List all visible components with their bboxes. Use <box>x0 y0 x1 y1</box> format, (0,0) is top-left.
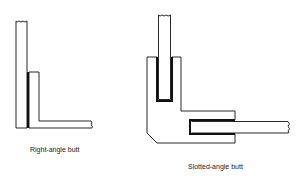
caption-right-angle-butt: Right-angle butt <box>30 146 79 153</box>
horizontal-board <box>29 72 92 128</box>
vertical-board <box>16 21 27 128</box>
vertical-board <box>159 15 171 100</box>
slotted-angle-butt-diagram <box>147 15 290 143</box>
horizontal-slot <box>190 120 235 134</box>
horizontal-board <box>192 122 290 134</box>
right-angle-butt-diagram <box>16 21 92 128</box>
caption-slotted-angle-butt: Slotted-angle butt <box>188 163 243 170</box>
vertical-slot <box>157 57 172 101</box>
